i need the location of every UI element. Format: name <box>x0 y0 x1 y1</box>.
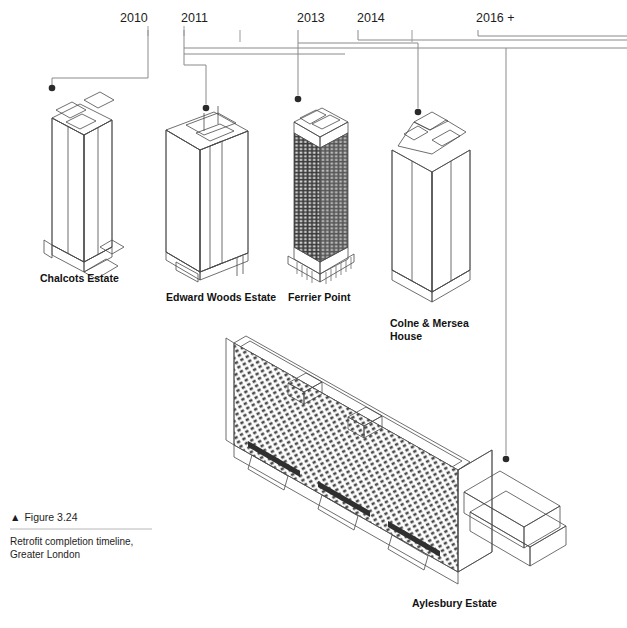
figure-number: ▲Figure 3.24 <box>10 511 78 523</box>
year-label-2011: 2011 <box>181 11 208 25</box>
building-label-colne-mersea: Colne & Mersea <box>390 317 469 329</box>
figure-caption: ▲Figure 3.24 Retrofit completion timelin… <box>10 511 152 560</box>
building-label-ferrier-point: Ferrier Point <box>288 291 351 303</box>
building-label-aylesbury: Aylesbury Estate <box>412 597 497 609</box>
building-colne-mersea-house[interactable] <box>392 112 470 302</box>
timeline-dot-2011[interactable] <box>203 105 210 112</box>
year-label-2010: 2010 <box>120 11 148 25</box>
building-ferrier-point[interactable] <box>288 108 354 284</box>
caption-line-2: Greater London <box>10 549 80 560</box>
caption-line-1: Retrofit completion timeline, <box>10 536 133 547</box>
building-edward-woods-estate[interactable] <box>166 106 248 282</box>
timeline-dot-2014[interactable] <box>415 109 422 116</box>
building-label-chalcots: Chalcots Estate <box>40 272 119 284</box>
timeline-branch-2011[interactable] <box>184 30 209 111</box>
building-label-edward-woods: Edward Woods Estate <box>166 291 276 303</box>
timeline-dot-2013[interactable] <box>295 96 302 103</box>
building-label-colne-mersea-line2: House <box>390 330 422 342</box>
figure-canvas: 2010 2011 2013 2014 2016 + Chalcots Esta… <box>0 0 627 628</box>
timeline-dot-2016[interactable] <box>503 456 510 463</box>
year-label-2013: 2013 <box>297 11 325 25</box>
timeline-dot-2010[interactable] <box>49 85 56 92</box>
timeline-branch-2010[interactable] <box>49 30 148 91</box>
year-label-2016: 2016 + <box>476 11 515 25</box>
timeline-bar-2013 <box>298 43 418 108</box>
year-label-2014: 2014 <box>357 11 385 25</box>
timeline-branch-2013[interactable] <box>295 30 302 102</box>
building-chalcots-estate[interactable] <box>44 92 124 279</box>
building-aylesbury-estate[interactable] <box>226 336 566 584</box>
